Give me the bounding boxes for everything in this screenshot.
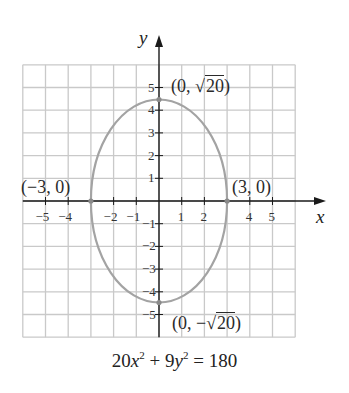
y-tick-label: −5: [142, 308, 156, 321]
label-bottom-vertex: (0, −√20): [172, 314, 241, 332]
label-left-vertex: (−3, 0): [21, 178, 70, 196]
x-tick-label: −4: [58, 210, 72, 223]
x-tick-label: 4: [246, 210, 253, 223]
y-tick-label: 4: [148, 103, 155, 116]
x-tick-label: −1: [126, 210, 140, 223]
x-tick-label: 2: [200, 210, 207, 223]
x-tick-label: 5: [269, 210, 276, 223]
y-axis-label: y: [139, 28, 147, 47]
x-tick-label: 1: [178, 210, 185, 223]
y-tick-label: 5: [148, 81, 155, 94]
y-tick-label: −4: [142, 285, 156, 298]
y-tick-label: −3: [142, 262, 156, 275]
x-axis-label: x: [316, 207, 324, 226]
y-tick-label: −1: [142, 217, 156, 230]
y-tick-label: −2: [142, 239, 156, 252]
label-right-vertex: (3, 0): [232, 178, 271, 196]
x-tick-label: −2: [104, 210, 118, 223]
x-tick-label: −5: [36, 210, 50, 223]
y-tick-label: 2: [148, 149, 155, 162]
equation-caption: 20x2 + 9y2 = 180: [0, 350, 349, 372]
y-tick-label: 3: [148, 126, 155, 139]
label-top-vertex: (0, √20): [171, 77, 230, 95]
y-tick-label: 1: [148, 171, 155, 184]
